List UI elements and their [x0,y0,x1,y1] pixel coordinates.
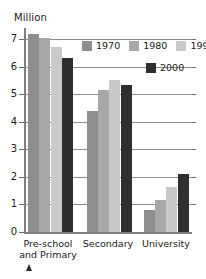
legend-swatch [82,41,92,51]
y-tick-right [192,204,196,205]
legend-row-primary: 197019801990 [82,41,206,51]
bar [155,200,166,232]
y-tick-mark [19,39,24,40]
legend-swatch [146,63,156,73]
bar-group [87,28,133,232]
x-category-label: Secondary [76,238,140,249]
y-tick-right [192,94,196,95]
bar [62,58,73,232]
y-tick-label: 3 [11,144,17,154]
y-tick-label: 4 [11,117,17,127]
y-tick-mark [19,232,24,233]
y-axis-title: Million [14,12,47,23]
y-tick-mark [19,204,24,205]
legend-label: 1970 [96,41,120,51]
y-tick-label: 7 [11,34,17,44]
x-category-label-line: and Primary [12,249,84,260]
legend-swatch [176,41,186,51]
bar [121,85,132,232]
x-category-label-line: Secondary [76,238,140,249]
x-axis-line [24,232,192,234]
x-category-label-line: Pre-school [12,238,84,249]
bar-chart: Million 01234567 Pre-schooland PrimarySe… [0,0,206,279]
plot-area: 01234567 [24,28,192,234]
y-tick-right [192,67,196,68]
bar [28,34,39,232]
bar [144,210,155,232]
bar [178,174,189,232]
y-tick-mark [19,94,24,95]
y-tick-label: 6 [11,62,17,72]
bar [39,38,50,232]
up-arrow-icon [26,264,32,271]
bars-layer [26,28,192,232]
bar [51,47,62,232]
y-tick-mark [19,149,24,150]
y-tick-label: 0 [11,227,17,237]
x-category-label: University [134,238,198,249]
bar [87,111,98,232]
legend-item: 1990 [176,41,206,51]
bar [98,90,109,232]
legend-label: 1980 [143,41,167,51]
legend-item: 2000 [146,63,184,73]
x-category-label-line: University [134,238,198,249]
y-tick-mark [19,122,24,123]
y-tick-right [192,149,196,150]
y-tick-mark [19,177,24,178]
y-tick-label: 1 [11,199,17,209]
y-tick-right [192,177,196,178]
y-tick-right [192,122,196,123]
legend-row-secondary: 2000 [146,63,184,73]
y-tick-mark [19,67,24,68]
y-tick-label: 2 [11,172,17,182]
legend-item: 1980 [129,41,167,51]
bar [166,187,177,232]
legend-label: 1990 [190,41,206,51]
legend-item: 1970 [82,41,120,51]
bar [109,80,120,232]
bar-group [144,28,190,232]
legend-label: 2000 [160,63,184,73]
y-tick-label: 5 [11,89,17,99]
x-category-label: Pre-schooland Primary [12,238,84,260]
legend-swatch [129,41,139,51]
bar-group [28,28,74,232]
